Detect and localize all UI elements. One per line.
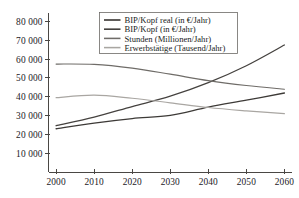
y-tick-label: 60 000	[16, 55, 43, 65]
x-tick-label: 2060	[275, 177, 294, 187]
y-tick-label: 80 000	[16, 17, 43, 27]
y-tick-label: 10 000	[16, 149, 43, 159]
x-tick-label: 2010	[85, 177, 104, 187]
line-chart: 10 00020 00030 00040 00050 00060 00070 0…	[0, 0, 299, 198]
x-tick-label: 2040	[199, 177, 218, 187]
y-tick-label: 70 000	[16, 36, 43, 46]
series-line-4	[56, 95, 284, 114]
y-tick-label: 30 000	[16, 111, 43, 121]
y-tick-label: 20 000	[16, 130, 43, 140]
y-tick-label: 40 000	[16, 92, 43, 102]
chart-container: 10 00020 00030 00040 00050 00060 00070 0…	[0, 0, 299, 198]
x-tick-label: 2000	[47, 177, 66, 187]
series-line-3	[56, 64, 284, 89]
legend-label-4: Erwerbstätige (Tausend/Jahr)	[125, 43, 226, 53]
x-tick-label: 2030	[161, 177, 180, 187]
y-tick-label: 50 000	[16, 73, 43, 83]
x-tick-label: 2050	[237, 177, 256, 187]
x-tick-label: 2020	[123, 177, 142, 187]
